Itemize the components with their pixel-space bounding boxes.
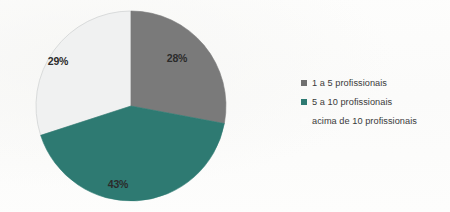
legend-item-1-a-5-profissionais[interactable]: 1 a 5 profissionais — [301, 74, 447, 91]
legend-item-label: 1 a 5 profissionais — [312, 78, 387, 88]
legend-item-label: acima de 10 profissionais — [312, 116, 417, 126]
pie-slice-value-5-a-10-profissionais: 43% — [108, 178, 129, 190]
legend-swatch-icon — [301, 80, 307, 86]
chart-legend: 1 a 5 profissionais 5 a 10 profissionais… — [301, 74, 447, 131]
legend-swatch-icon — [301, 118, 307, 124]
pie-slice-value-acima-de-10-profissionais: 29% — [48, 55, 69, 67]
pie-slice-1-a-5-profissionais[interactable] — [131, 11, 226, 124]
pie-chart-figure: 28% 43% 29% 1 a 5 profissionais 5 a 10 p… — [0, 0, 450, 212]
pie-slice-value-1-a-5-profissionais: 28% — [167, 52, 188, 64]
legend-item-5-a-10-profissionais[interactable]: 5 a 10 profissionais — [301, 93, 447, 110]
legend-item-acima-de-10-profissionais[interactable]: acima de 10 profissionais — [301, 112, 447, 129]
legend-item-label: 5 a 10 profissionais — [312, 97, 392, 107]
legend-swatch-icon — [301, 99, 307, 105]
